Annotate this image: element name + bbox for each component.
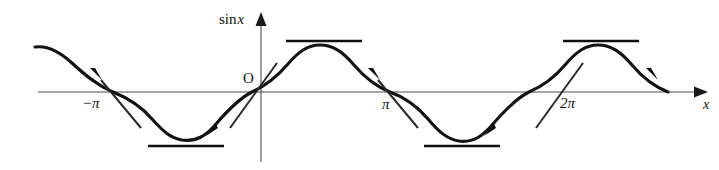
sine-curve-path — [35, 45, 668, 141]
y-axis-label-variable: x — [237, 11, 245, 27]
curve-direction-arrow-icon-3 — [368, 68, 380, 80]
sine-curve-figure: sinx O x −π π 2π — [0, 0, 719, 170]
x-tick-label-pi: π — [382, 97, 390, 112]
x-axis-label: x — [703, 98, 709, 112]
origin-label: O — [243, 71, 254, 86]
x-axis-arrowhead-icon — [694, 87, 708, 98]
curve-direction-arrow-icon-5 — [646, 68, 658, 80]
x-tick-label-two-pi: 2π — [560, 96, 575, 111]
y-axis-label-text: sin — [219, 11, 237, 27]
y-axis-arrowhead-icon — [256, 12, 267, 26]
x-tick-label-neg-pi: −π — [82, 96, 100, 111]
figure-canvas — [0, 0, 719, 170]
y-axis-label: sinx — [219, 12, 244, 27]
curve-direction-arrow-icon-2 — [206, 124, 218, 136]
